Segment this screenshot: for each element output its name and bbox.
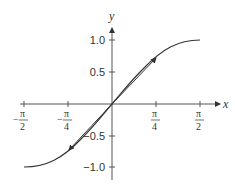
svg-text:2: 2 bbox=[196, 121, 201, 132]
y-tick-label-0.5: 0.5 bbox=[90, 66, 105, 78]
y-tick-label-1: 1.0 bbox=[90, 34, 105, 46]
svg-text:π: π bbox=[152, 108, 157, 119]
tangent-arrow-up bbox=[112, 58, 156, 104]
x-axis-label: x bbox=[222, 97, 229, 111]
svg-text:4: 4 bbox=[152, 121, 157, 132]
tangent-arrow-down bbox=[69, 104, 112, 150]
x-tick-label-pi-4: π 4 bbox=[151, 108, 160, 132]
chart: x y − π 2 − π 4 π 4 π 2 1.0 0.5 −0.5 −1.… bbox=[0, 0, 235, 187]
svg-text:−: − bbox=[57, 114, 63, 125]
y-tick-label-neg-1: −1.0 bbox=[83, 161, 105, 173]
svg-text:π: π bbox=[196, 108, 201, 119]
svg-text:π: π bbox=[20, 108, 25, 119]
svg-text:2: 2 bbox=[20, 121, 25, 132]
y-axis-label: y bbox=[108, 9, 115, 23]
x-tick-label-neg-pi-4: − π 4 bbox=[57, 108, 72, 132]
x-tick-label-neg-pi-2: − π 2 bbox=[13, 108, 28, 132]
svg-text:−: − bbox=[13, 114, 19, 125]
svg-text:π: π bbox=[64, 108, 69, 119]
x-tick-label-pi-2: π 2 bbox=[195, 108, 204, 132]
svg-text:4: 4 bbox=[64, 121, 69, 132]
